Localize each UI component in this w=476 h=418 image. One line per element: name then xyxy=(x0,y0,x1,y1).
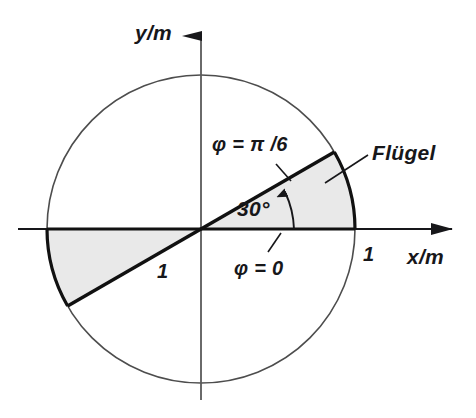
angle-30-degrees-label: 30° xyxy=(237,198,270,219)
x-axis-label: x/m xyxy=(407,246,444,267)
x-axis-tick-label-1: 1 xyxy=(363,244,374,264)
fluegel-label: Flügel xyxy=(372,142,436,163)
phi-zero-label: φ = 0 xyxy=(234,258,284,278)
phi-pi-over-6-label: φ = π /6 xyxy=(212,134,288,154)
diagonal-tick-label-1: 1 xyxy=(157,261,168,281)
leader-line-phi-pi6 xyxy=(276,164,291,181)
rotor-blade-diagram: y/m x/m φ = π /6 30° φ = 0 Flügel 1 1 xyxy=(0,0,476,418)
leader-line-phi-zero xyxy=(268,233,281,252)
y-axis-label: y/m xyxy=(135,22,172,43)
